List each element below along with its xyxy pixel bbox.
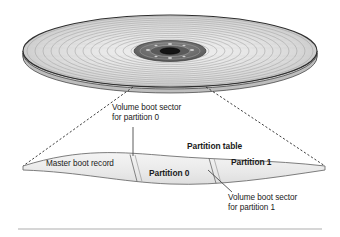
callout-right-dashed: [206, 87, 325, 166]
label-volume-boot-sector-1: Volume boot sector for partition 1: [228, 193, 297, 213]
label-partition-1: Partition 1: [231, 157, 271, 167]
figure-disk-partitions: Volume boot sector for partition 0 Volum…: [0, 0, 340, 237]
platter-spindle: [160, 48, 180, 54]
label-volume-boot-sector-0: Volume boot sector for partition 0: [112, 103, 181, 123]
callout-lines: [23, 87, 325, 166]
label-partition-table: Partition table: [187, 141, 242, 151]
label-partition-0: Partition 0: [149, 168, 189, 178]
label-master-boot-record: Master boot record: [46, 159, 114, 169]
disk-platter-group: [23, 15, 317, 93]
